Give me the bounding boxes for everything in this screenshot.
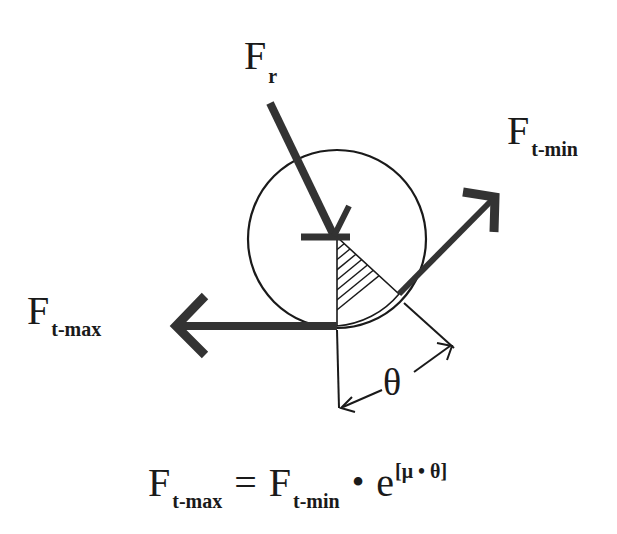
formula-exp-base: e — [376, 460, 394, 505]
capstan-equation: Ft-max=Ft-min•e[μ • θ] — [148, 461, 447, 511]
formula-equals: = — [234, 460, 257, 505]
formula-lhs-symbol: F — [148, 460, 170, 505]
radial-force-label: Fr — [244, 36, 277, 86]
wrap-angle-label: θ — [383, 363, 401, 401]
tension-min-label: Ft-min — [507, 111, 578, 159]
formula-rhs-subscript: t-min — [293, 490, 340, 512]
belt-friction-diagram — [0, 0, 617, 534]
tension-max-symbol: F — [27, 288, 49, 333]
tension-min-symbol: F — [507, 108, 529, 153]
tension-min-arrow — [399, 192, 495, 294]
tension-max-subscript: t-max — [51, 318, 101, 340]
tension-max-label: Ft-max — [27, 291, 101, 339]
tension-min-subscript: t-min — [531, 138, 578, 160]
formula-rhs-symbol: F — [269, 460, 291, 505]
formula-multiply: • — [352, 462, 365, 502]
radial-force-subscript: r — [268, 65, 277, 87]
formula-exponent: [μ • θ] — [395, 460, 447, 482]
formula-lhs-subscript: t-max — [172, 490, 222, 512]
radial-force-symbol: F — [244, 33, 266, 78]
tension-max-arrow — [176, 296, 337, 355]
